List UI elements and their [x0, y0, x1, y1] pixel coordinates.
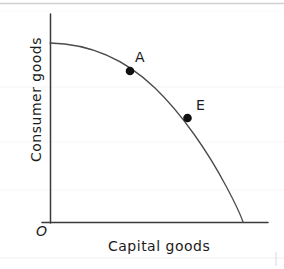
point-e-marker: [183, 114, 192, 123]
point-a-marker: [126, 67, 135, 76]
ppf-figure: A E O Capital goods Consumer goods: [0, 0, 284, 269]
point-e-label: E: [196, 98, 205, 112]
y-axis-label: Consumer goods: [29, 62, 43, 162]
x-axis-label: Capital goods: [108, 239, 210, 253]
ppf-curve: [50, 43, 243, 222]
origin-label: O: [36, 224, 47, 238]
point-a-label: A: [135, 50, 145, 64]
